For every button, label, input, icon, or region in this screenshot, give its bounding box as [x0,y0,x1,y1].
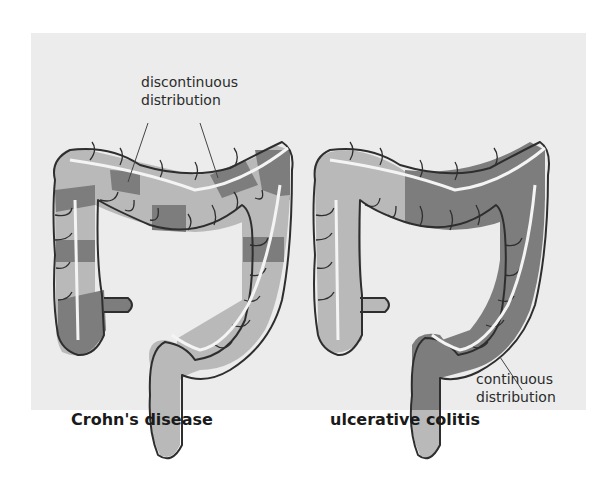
annotation-line-1: discontinuous [141,73,238,91]
annotation-line-2: distribution [476,388,556,406]
annotation-line-1: continuous [476,370,556,388]
annotation-discontinuous: discontinuous distribution [141,73,238,109]
annotation-continuous: continuous distribution [476,370,556,406]
title-crohns: Crohn's disease [71,410,213,429]
title-ulcerative-colitis: ulcerative colitis [330,410,480,429]
pointer-discontinuous-right [200,123,218,178]
annotation-line-2: distribution [141,91,238,109]
